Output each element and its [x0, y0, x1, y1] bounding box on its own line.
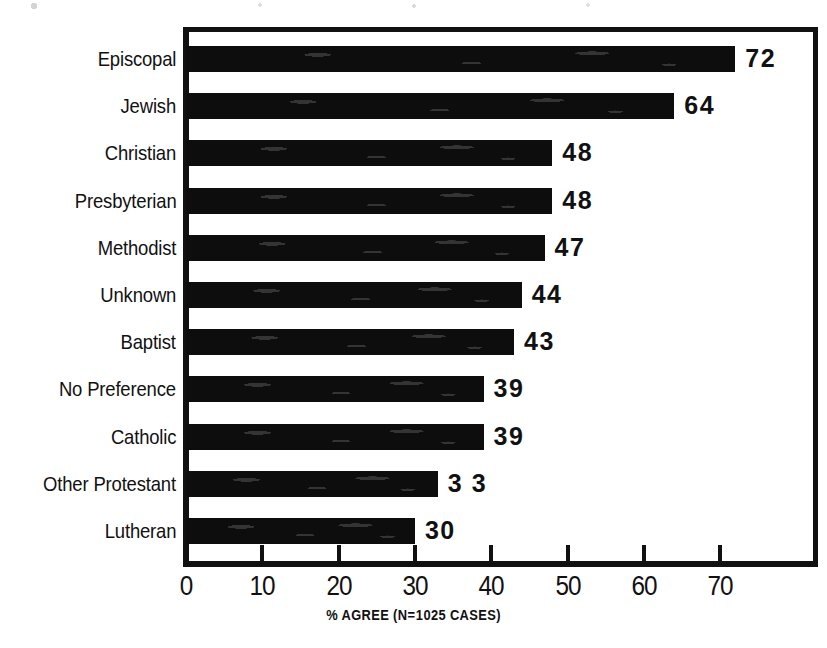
x-axis-tick [260, 545, 264, 563]
bar-value-label: 47 [555, 234, 586, 260]
x-axis-tick-label: 50 [555, 571, 580, 602]
bar-value-label: 43 [524, 328, 555, 354]
bar-value-label: 39 [494, 423, 525, 449]
bar-value-label: 48 [562, 139, 593, 165]
bar-value-label: 44 [532, 281, 563, 307]
x-axis-tick-label: 0 [180, 571, 193, 602]
category-label: Jewish [121, 95, 176, 116]
x-axis-tick-label: 40 [479, 571, 504, 602]
x-axis-tick [489, 545, 493, 563]
bar [186, 518, 415, 544]
category-label: Baptist [121, 331, 176, 352]
x-axis-tick [413, 545, 417, 563]
x-axis-tick [642, 545, 646, 563]
caption-equals: = [407, 607, 415, 623]
bar-value-label: 3 3 [448, 470, 487, 496]
bar-value-label: 30 [425, 517, 456, 543]
bar [186, 46, 735, 72]
x-axis-tick-label: 70 [707, 571, 732, 602]
bar-value-label: 39 [494, 375, 525, 401]
bar-value-label: 64 [684, 92, 715, 118]
bar [186, 376, 484, 402]
x-axis-tick-label: 20 [326, 571, 351, 602]
x-axis-tick [718, 545, 722, 563]
bar [186, 424, 484, 450]
category-label: Christian [105, 142, 176, 163]
category-label: Lutheran [104, 520, 176, 541]
category-label: Episcopal [97, 48, 176, 69]
x-axis-tick-label: 10 [250, 571, 275, 602]
bar [186, 93, 674, 119]
category-label: Catholic [111, 426, 176, 447]
bar [186, 329, 514, 355]
caption-percent-agree: % AGREE (N [326, 607, 407, 623]
bar-value-label: 72 [745, 45, 776, 71]
category-label: No Preference [59, 378, 176, 399]
category-label: Presbyterian [74, 190, 176, 211]
category-label: Other Protestant [43, 473, 176, 494]
category-label: Unknown [100, 284, 176, 305]
bar-value-label: 48 [562, 187, 593, 213]
bar [186, 235, 545, 261]
bar [186, 140, 552, 166]
bar [186, 282, 522, 308]
caption-n-cases: 1025 CASES) [416, 607, 501, 623]
x-axis-caption: % AGREE (N=1025 CASES) [33, 607, 794, 623]
x-axis-tick [337, 545, 341, 563]
scan-noise-top [28, 2, 728, 9]
bar [186, 188, 552, 214]
bar-chart: 7264484847444339393 330 EpiscopalJewishC… [0, 0, 827, 648]
x-axis-line [183, 561, 818, 567]
category-label: Methodist [97, 237, 176, 258]
x-axis-tick-label: 30 [402, 571, 427, 602]
bar [186, 471, 438, 497]
x-axis-tick [566, 545, 570, 563]
x-axis-tick-label: 60 [631, 571, 656, 602]
